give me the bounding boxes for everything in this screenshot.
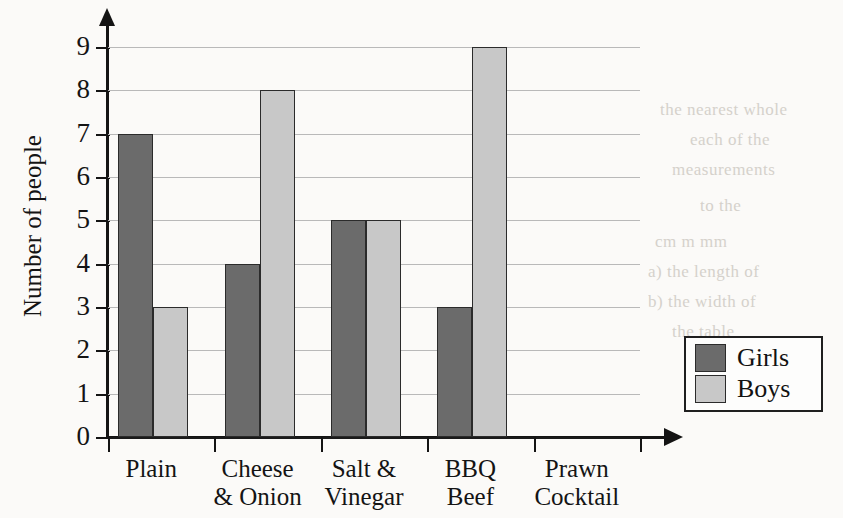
x-tick-3 — [427, 437, 429, 452]
y-tick-label-1: 1 — [56, 380, 90, 407]
bar-girls-2 — [331, 220, 366, 437]
x-label-1: Cheese& Onion — [204, 455, 310, 511]
legend-item-boys[interactable]: Boys — [695, 375, 790, 403]
x-tick-5 — [640, 437, 642, 452]
bar-girls-0 — [118, 134, 153, 437]
gridline-6 — [108, 177, 640, 178]
bleed-text-0: the nearest whole — [660, 100, 787, 120]
x-label-1-line-1: & Onion — [204, 483, 310, 511]
y-tick-label-5: 5 — [56, 206, 90, 233]
x-tick-1 — [214, 437, 216, 452]
x-label-3-line-1: Beef — [417, 483, 523, 511]
legend-swatch-girls — [695, 344, 726, 372]
legend-swatch-boys — [695, 375, 726, 403]
bleed-text-5: a) the length of — [648, 262, 759, 282]
x-label-4: PrawnCocktail — [524, 455, 630, 511]
x-label-1-line-0: Cheese — [204, 455, 310, 483]
y-tick-label-3: 3 — [56, 293, 90, 320]
legend: Girls Boys — [684, 336, 823, 412]
gridline-0 — [108, 437, 640, 439]
x-label-2-line-1: Vinegar — [311, 483, 417, 511]
legend-label-boys: Boys — [737, 376, 790, 402]
bleed-text-3: to the — [700, 196, 741, 216]
bar-boys-3 — [472, 47, 507, 437]
gridline-9 — [108, 47, 640, 48]
x-tick-0 — [108, 437, 110, 452]
legend-item-girls[interactable]: Girls — [695, 344, 789, 372]
bar-boys-2 — [366, 220, 401, 437]
legend-label-girls: Girls — [737, 345, 789, 371]
x-label-4-line-1: Cocktail — [524, 483, 630, 511]
x-label-0-line-0: Plain — [98, 455, 204, 483]
y-tick-label-9: 9 — [56, 33, 90, 60]
bleed-text-1: each of the — [690, 130, 770, 150]
y-axis-arrow-icon — [99, 8, 115, 26]
bar-chart: the nearest wholeeach of themeasurements… — [0, 0, 843, 518]
x-label-2-line-0: Salt & — [311, 455, 417, 483]
bar-boys-0 — [153, 307, 188, 437]
x-axis-arrow-icon — [664, 428, 683, 446]
gridline-8 — [108, 90, 640, 91]
x-tick-2 — [321, 437, 323, 452]
x-label-3-line-0: BBQ — [417, 455, 523, 483]
x-tick-4 — [534, 437, 536, 452]
y-tick-label-8: 8 — [56, 76, 90, 103]
bar-girls-1 — [225, 264, 260, 437]
bar-girls-3 — [437, 307, 472, 437]
x-label-3: BBQBeef — [417, 455, 523, 511]
y-tick-label-7: 7 — [56, 120, 90, 147]
y-tick-label-4: 4 — [56, 250, 90, 277]
bar-boys-1 — [260, 90, 295, 437]
bleed-text-6: b) the width of — [648, 292, 756, 312]
bleed-text-2: measurements — [672, 160, 775, 180]
x-label-2: Salt &Vinegar — [311, 455, 417, 511]
y-tick-label-6: 6 — [56, 163, 90, 190]
y-axis-title: Number of people — [19, 96, 47, 356]
x-label-0: Plain — [98, 455, 204, 483]
gridline-7 — [108, 134, 640, 135]
y-tick-label-2: 2 — [56, 336, 90, 363]
bleed-text-4: cm m mm — [655, 232, 727, 252]
plot-area — [108, 47, 640, 437]
y-tick-label-0: 0 — [56, 423, 90, 450]
x-label-4-line-0: Prawn — [524, 455, 630, 483]
